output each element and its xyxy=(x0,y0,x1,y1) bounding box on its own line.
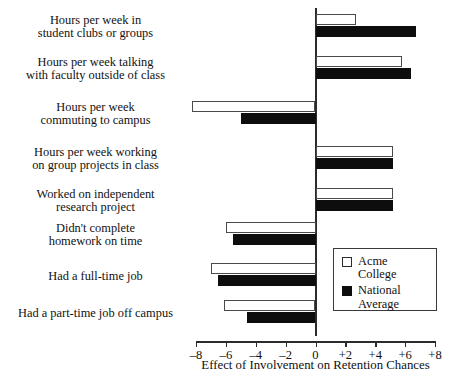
legend-swatch-national-icon xyxy=(342,286,352,296)
bar-acme xyxy=(316,56,403,67)
bar-chart: Hours per week in student clubs or group… xyxy=(0,0,451,376)
x-tick xyxy=(256,341,257,347)
x-tick xyxy=(375,341,376,347)
bar-acme xyxy=(226,222,316,233)
bar-national xyxy=(316,68,412,79)
bar-national xyxy=(218,275,315,286)
bar-national xyxy=(316,158,394,169)
legend: Acme College National Average xyxy=(333,248,437,311)
bar-acme xyxy=(224,300,315,311)
category-label: Hours per week commuting to campus xyxy=(3,101,188,128)
category-label: Didn't complete homework on time xyxy=(3,222,188,249)
bar-national xyxy=(241,113,316,124)
category-label: Hours per week in student clubs or group… xyxy=(3,14,188,41)
category-label: Hours per week working on group projects… xyxy=(3,146,188,173)
x-tick xyxy=(286,341,287,347)
x-tick xyxy=(226,341,227,347)
legend-item-national: National Average xyxy=(342,284,436,310)
x-tick xyxy=(435,341,436,347)
bar-acme xyxy=(211,263,316,274)
x-axis-title: Effect of Involvement on Retention Chanc… xyxy=(196,358,435,373)
legend-swatch-acme-icon xyxy=(342,257,352,267)
x-tick xyxy=(345,341,346,347)
x-axis: –8–6–4–20+2+4+6+8 xyxy=(196,341,435,343)
category-label: Had a full-time job xyxy=(3,270,188,284)
bar-national xyxy=(247,312,316,323)
legend-label-acme: Acme College xyxy=(358,255,397,281)
legend-label-national: National Average xyxy=(358,284,401,310)
bar-national xyxy=(316,26,416,37)
x-tick xyxy=(316,341,317,347)
bar-acme xyxy=(316,14,356,25)
bar-acme xyxy=(316,146,394,157)
category-label: Worked on independent research project xyxy=(3,188,188,215)
category-label: Hours per week talking with faculty outs… xyxy=(3,56,188,83)
legend-item-acme: Acme College xyxy=(342,255,436,281)
bar-national xyxy=(233,234,315,245)
bar-acme xyxy=(316,188,394,199)
bar-national xyxy=(316,200,394,211)
bar-acme xyxy=(192,101,316,112)
x-tick xyxy=(405,341,406,347)
category-label: Had a part-time job off campus xyxy=(3,307,188,321)
category-axis-labels: Hours per week in student clubs or group… xyxy=(0,0,188,336)
x-tick xyxy=(196,341,197,347)
